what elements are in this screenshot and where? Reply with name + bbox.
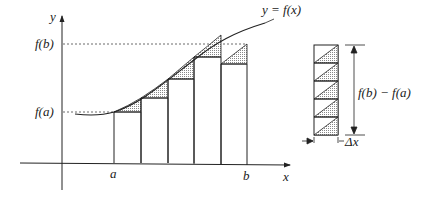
x-axis bbox=[20, 163, 290, 165]
shaded-gaps bbox=[114, 35, 247, 112]
riemann-diagram: y x f(b) f(a) a b y = f(x) f(b) − f(a) Δ… bbox=[0, 0, 428, 200]
curve-label-leader bbox=[265, 19, 274, 23]
curve-f bbox=[75, 23, 265, 115]
curve-label: y = f(x) bbox=[260, 2, 301, 17]
fb-label: f(b) bbox=[35, 36, 54, 51]
fa-label: f(a) bbox=[35, 104, 54, 119]
b-label: b bbox=[243, 168, 250, 183]
x-axis-label: x bbox=[282, 169, 289, 184]
width-dimension bbox=[302, 137, 344, 144]
height-label: f(b) − f(a) bbox=[358, 85, 411, 100]
y-axis-label: y bbox=[48, 9, 56, 24]
width-label: Δx bbox=[344, 134, 359, 149]
stacked-triangles bbox=[314, 45, 338, 135]
a-label: a bbox=[110, 166, 117, 181]
